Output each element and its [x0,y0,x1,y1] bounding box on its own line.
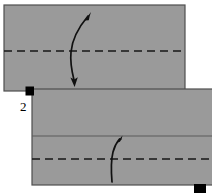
corner-marker-left-icon [26,87,35,96]
upper-sheet-group [4,5,185,91]
origami-step-diagram: 2 [0,0,212,195]
upper-sheet [4,5,185,91]
step-number-label: 2 [20,99,27,114]
diagram-canvas: 2 [0,0,212,195]
corner-marker-right-icon [194,184,206,193]
